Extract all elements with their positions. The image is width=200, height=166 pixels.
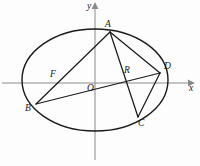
segment-CD (138, 73, 160, 117)
x-axis-label: x (189, 84, 193, 94)
point-label-F: F (50, 70, 56, 80)
point-label-C: C (138, 119, 144, 129)
figure-canvas (0, 0, 200, 166)
y-axis-arrowhead (92, 2, 99, 9)
segment-AB (36, 32, 110, 104)
point-label-A: A (105, 20, 111, 30)
segment-AD (110, 32, 160, 73)
geometry-figure: A B C D F R O y x (0, 0, 200, 166)
point-label-D: D (164, 62, 171, 72)
origin-label: O (87, 84, 94, 94)
point-label-R: R (124, 66, 130, 76)
point-label-B: B (25, 104, 31, 114)
y-axis-label: y (87, 2, 91, 12)
